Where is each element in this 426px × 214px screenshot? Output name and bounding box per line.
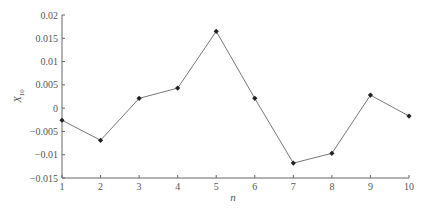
y-tick-label: −0.01 bbox=[35, 149, 58, 160]
data-point-marker bbox=[252, 96, 257, 101]
x-tick-label: 10 bbox=[404, 181, 414, 192]
x-axis-label: n bbox=[230, 191, 236, 203]
series-line bbox=[62, 31, 409, 163]
data-point-marker bbox=[406, 113, 411, 118]
x-tick-label: 1 bbox=[60, 181, 65, 192]
data-point-marker bbox=[368, 93, 373, 98]
data-point-marker bbox=[291, 160, 296, 165]
y-tick-label: 0 bbox=[53, 103, 58, 114]
y-tick-label: −0.015 bbox=[30, 173, 58, 184]
y-tick-label: 0.02 bbox=[41, 10, 59, 21]
x-tick-label: 5 bbox=[214, 181, 219, 192]
x-tick-label: 3 bbox=[137, 181, 142, 192]
y-axis-ticks: −0.015−0.01−0.00500.0050.010.0150.02 bbox=[30, 10, 65, 184]
y-tick-label: 0.015 bbox=[36, 33, 59, 44]
y-tick-label: −0.005 bbox=[30, 126, 58, 137]
x-tick-label: 4 bbox=[175, 181, 180, 192]
data-point-marker bbox=[59, 118, 64, 123]
x-tick-label: 9 bbox=[368, 181, 373, 192]
x-tick-label: 2 bbox=[98, 181, 103, 192]
data-point-marker bbox=[329, 151, 334, 156]
x-tick-label: 8 bbox=[329, 181, 334, 192]
x-tick-label: 7 bbox=[291, 181, 296, 192]
line-chart: −0.015−0.01−0.00500.0050.010.0150.02 123… bbox=[0, 0, 426, 214]
x-tick-label: 6 bbox=[252, 181, 257, 192]
y-axis-label-subscript: 10 bbox=[18, 89, 26, 97]
y-tick-label: 0.01 bbox=[41, 56, 59, 67]
data-series bbox=[59, 29, 411, 166]
y-axis-label: X10 bbox=[11, 89, 26, 104]
y-tick-label: 0.005 bbox=[36, 79, 59, 90]
chart-axes bbox=[62, 15, 409, 178]
